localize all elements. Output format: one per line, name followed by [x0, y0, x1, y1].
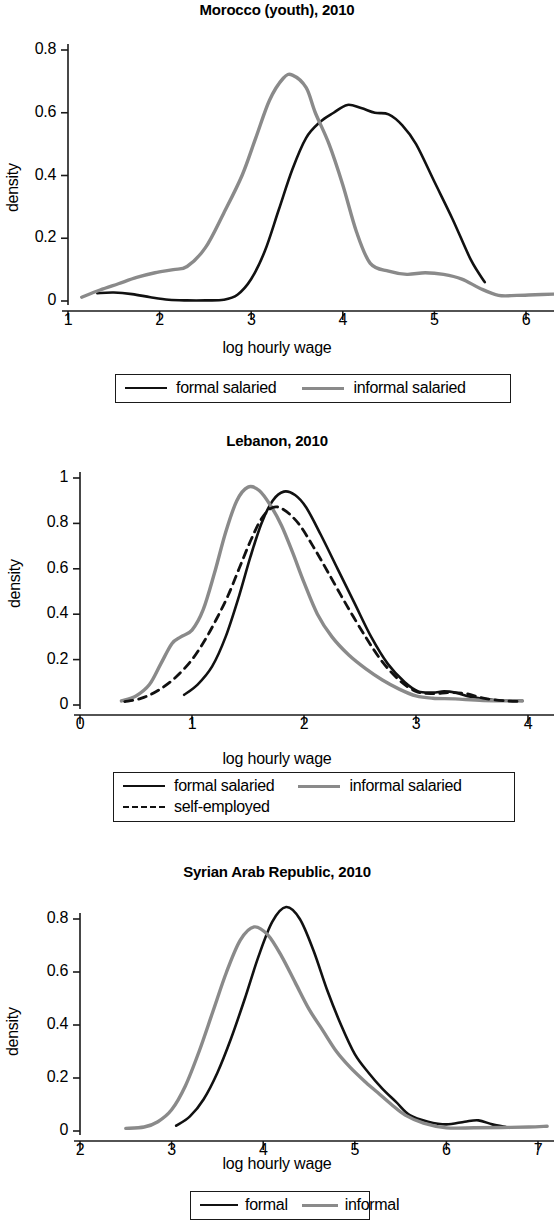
legend-entry-informal-salaried: informal salaried — [296, 776, 461, 796]
legend-swatch-dashed-black-line-icon — [123, 806, 165, 808]
legend-entry-self-employed: self-employed — [121, 797, 270, 817]
y-tick-label: 0.8 — [14, 909, 68, 927]
legend-swatch-solid-black-line-icon — [123, 785, 165, 787]
y-tick-label: 0.2 — [2, 228, 56, 246]
legend-entry-informal: informal — [300, 1195, 400, 1215]
plot-area-morocco — [0, 0, 554, 360]
series-line-informal-salaried — [82, 74, 554, 297]
y-tick-label: 0.8 — [14, 513, 68, 531]
legend-swatch-solid-black-line-icon — [125, 387, 167, 389]
x-tick-label: 2 — [135, 311, 185, 329]
y-tick-label: 0.4 — [14, 604, 68, 622]
y-tick-label: 0.6 — [14, 559, 68, 577]
legend-label: formal — [245, 1195, 288, 1215]
legend-morocco: formal salaried informal salaried — [115, 374, 511, 403]
x-tick-label: 3 — [391, 715, 441, 733]
y-tick-label: 0 — [14, 695, 68, 713]
series-line-formal — [176, 907, 506, 1127]
legend-label: self-employed — [174, 797, 270, 817]
x-tick-label: 6 — [421, 1141, 471, 1159]
y-tick-label: 0.6 — [14, 962, 68, 980]
chart-panel-syria: Syrian Arab Republic, 2010 density log h… — [0, 830, 554, 1229]
x-tick-label: 0 — [55, 715, 105, 733]
legend-label: formal salaried — [174, 776, 274, 796]
x-tick-label: 6 — [501, 311, 551, 329]
x-tick-label: 3 — [226, 311, 276, 329]
x-tick-label: 5 — [409, 311, 459, 329]
legend-entry-formal-salaried: formal salaried — [123, 378, 276, 398]
x-tick-label: 1 — [167, 715, 217, 733]
x-tick-label: 4 — [503, 715, 553, 733]
legend-label: informal salaried — [353, 378, 465, 398]
legend-swatch-solid-black-line-icon — [200, 1204, 238, 1206]
legend-label: formal salaried — [176, 378, 276, 398]
series-line-self-employed — [125, 507, 523, 702]
legend-entry-formal: formal — [198, 1195, 288, 1215]
legend-row: formal informal — [198, 1195, 362, 1215]
y-tick-label: 0.2 — [14, 1068, 68, 1086]
legend-row: formal salaried informal salaried — [123, 378, 503, 398]
legend-lebanon: formal salaried informal salaried self-e… — [113, 772, 515, 822]
series-line-informal-salaried — [121, 486, 522, 700]
x-tick-label: 2 — [279, 715, 329, 733]
x-tick-label: 4 — [318, 311, 368, 329]
legend-row: self-employed — [121, 797, 507, 817]
legend-entry-formal-salaried: formal salaried — [121, 776, 274, 796]
x-axis-label-lebanon: log hourly wage — [0, 750, 554, 768]
legend-swatch-solid-gray-line-icon — [298, 785, 340, 788]
y-tick-label: 0.4 — [2, 166, 56, 184]
y-tick-label: 0.2 — [14, 650, 68, 668]
y-tick-label: 0.6 — [2, 103, 56, 121]
x-tick-label: 4 — [238, 1141, 288, 1159]
legend-row: formal salaried informal salaried — [121, 776, 507, 796]
chart-panel-morocco: Morocco (youth), 2010 density log hourly… — [0, 0, 554, 420]
y-tick-label: 0 — [2, 291, 56, 309]
plot-area-syria — [0, 830, 554, 1160]
x-axis-label-morocco: log hourly wage — [0, 339, 554, 357]
x-tick-label: 2 — [55, 1141, 105, 1159]
x-tick-label: 7 — [513, 1141, 554, 1159]
legend-label: informal — [345, 1195, 400, 1215]
legend-syria: formal informal — [190, 1191, 370, 1220]
y-tick-label: 0.4 — [14, 1015, 68, 1033]
legend-swatch-solid-gray-line-icon — [302, 387, 344, 390]
y-tick-label: 0.8 — [2, 40, 56, 58]
y-tick-label: 1 — [14, 468, 68, 486]
legend-swatch-solid-gray-line-icon — [302, 1204, 338, 1207]
legend-label: informal salaried — [349, 776, 461, 796]
legend-entry-informal-salaried: informal salaried — [300, 378, 465, 398]
series-line-informal — [126, 927, 547, 1129]
y-tick-label: 0 — [14, 1121, 68, 1139]
plot-area-lebanon — [0, 420, 554, 750]
chart-panel-lebanon: Lebanon, 2010 density log hourly wage fo… — [0, 420, 554, 830]
x-tick-label: 3 — [147, 1141, 197, 1159]
series-line-formal-salaried — [184, 491, 522, 701]
x-tick-label: 5 — [330, 1141, 380, 1159]
x-tick-label: 1 — [43, 311, 93, 329]
